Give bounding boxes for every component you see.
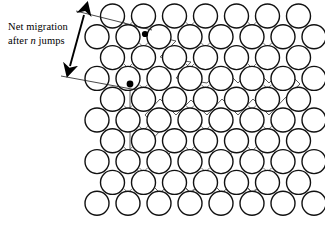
lattice-atom [194, 46, 218, 70]
lattice-atom [101, 129, 125, 153]
lattice-atom [240, 66, 264, 90]
lattice-atom [132, 87, 156, 111]
lattice-atom [225, 87, 249, 111]
lattice-atom [194, 4, 218, 28]
lattice-atom [256, 170, 280, 194]
lattice-atom [101, 87, 125, 111]
lattice-atom [302, 66, 325, 90]
lattice-atom [85, 108, 109, 132]
lattice-atom [287, 129, 311, 153]
lattice-atom [287, 4, 311, 28]
lattice-atom [194, 170, 218, 194]
lattice-atom [271, 191, 295, 215]
end-interstitial-site [127, 81, 134, 88]
lattice-atom [101, 170, 125, 194]
lattice-atom [240, 191, 264, 215]
lattice-atom [178, 191, 202, 215]
lattice-atom [147, 191, 171, 215]
caption-line-2: after n jumps [8, 34, 94, 48]
lattice-atom [225, 170, 249, 194]
lattice-atom [209, 150, 233, 174]
lattice-atom [302, 191, 325, 215]
lattice-atom [287, 46, 311, 70]
lattice-atom [240, 108, 264, 132]
lattice-atom [85, 191, 109, 215]
figure-root: Net migration after n jumps [0, 0, 325, 232]
lattice-atom [271, 25, 295, 49]
lattice-atom [256, 46, 280, 70]
lattice-atom [132, 46, 156, 70]
lattice-atom [225, 46, 249, 70]
caption-after-word: after [8, 35, 30, 46]
lattice-atom [101, 4, 125, 28]
lattice-atom [271, 108, 295, 132]
lattice-atom [147, 150, 171, 174]
lattice-atom [132, 4, 156, 28]
lattice-atom [240, 150, 264, 174]
lattice-atom [225, 4, 249, 28]
lattice-atom [116, 25, 140, 49]
lattice-atom [194, 129, 218, 153]
lattice-atom [116, 108, 140, 132]
lattice-atom [287, 87, 311, 111]
lattice-atom [178, 150, 202, 174]
caption-jumps-word: jumps [36, 35, 65, 46]
lattice-atom [271, 66, 295, 90]
lattice-atom [271, 150, 295, 174]
lattice-atom [116, 150, 140, 174]
lattice-atom [132, 129, 156, 153]
lattice-atom [256, 4, 280, 28]
lattice-atom [209, 25, 233, 49]
lattice-atom [147, 108, 171, 132]
lattice-atom [163, 4, 187, 28]
net-migration-caption: Net migration after n jumps [8, 20, 94, 47]
lattice-atom [209, 108, 233, 132]
lattice-atom [163, 46, 187, 70]
lattice-atom [132, 170, 156, 194]
lattice-atom [287, 170, 311, 194]
lattice-atom [225, 129, 249, 153]
lattice-atom [302, 108, 325, 132]
atom-lattice-overlay-layer [85, 4, 325, 215]
lattice-atom [178, 25, 202, 49]
lattice-atom [163, 129, 187, 153]
lattice-atom [302, 25, 325, 49]
lattice-atom [101, 46, 125, 70]
start-interstitial-site [142, 31, 148, 37]
lattice-atom [178, 108, 202, 132]
lattice-atom [194, 87, 218, 111]
lattice-atom [85, 150, 109, 174]
lattice-atom [163, 87, 187, 111]
lattice-atom [302, 150, 325, 174]
lattice-atom [178, 66, 202, 90]
lattice-atom [147, 25, 171, 49]
lattice-atom [240, 25, 264, 49]
lattice-atom [85, 66, 109, 90]
lattice-atom [209, 66, 233, 90]
lattice-atom [116, 191, 140, 215]
caption-line-1: Net migration [8, 20, 94, 34]
lattice-atom [163, 170, 187, 194]
lattice-atom [256, 87, 280, 111]
lattice-atom [256, 129, 280, 153]
lattice-atom [209, 191, 233, 215]
lattice-atom [147, 66, 171, 90]
